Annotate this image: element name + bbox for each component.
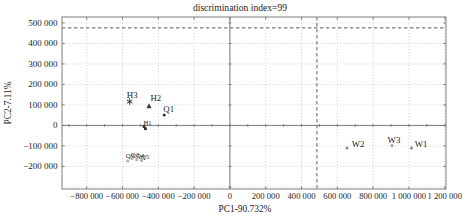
data-point-W2: W2 <box>345 139 364 150</box>
data-point-W3: W3 <box>388 135 401 147</box>
tick-labels: −800 000−600 000−400 000−200 0000200 000… <box>23 18 462 201</box>
data-point-H3: H3 <box>127 90 138 104</box>
y-tick-label: −200 000 <box>23 161 58 171</box>
y-tick-label: 500 000 <box>28 18 58 28</box>
gridlines <box>62 17 446 189</box>
x-tick-label: 0 <box>228 191 232 201</box>
point-label: H1 <box>144 119 152 126</box>
point-label: H3 <box>127 90 138 100</box>
data-point-H2: H2 <box>146 93 161 109</box>
data-point <box>144 127 147 130</box>
y-tick-label: 0 <box>53 120 58 130</box>
point-label: W3 <box>388 135 401 145</box>
point-label: H2 <box>150 93 161 103</box>
y-tick-label: 300 000 <box>28 59 58 69</box>
data-point-W1: W1 <box>410 139 427 150</box>
x-tick-label: 400 000 <box>288 191 316 201</box>
x-tick-label: 1 000 000 <box>392 191 426 201</box>
y-tick-label: −100 000 <box>23 141 58 151</box>
y-tick-label: 200 000 <box>28 79 58 89</box>
zero-axis-lines <box>62 17 446 189</box>
y-tick-label: 100 000 <box>28 100 58 110</box>
data-points: H3H2Q1H1Q2Q3Q4Q5W2W3W1 <box>126 90 428 162</box>
data-point-Q5: Q5 <box>140 153 150 163</box>
y-tick-label: 400 000 <box>28 38 58 48</box>
chart-title: discrimination index=99 <box>193 2 287 13</box>
y-axis-title: PC2-7.11% <box>3 81 13 124</box>
data-point-H1: H1 <box>143 119 152 127</box>
x-tick-label: 1 200 000 <box>428 191 462 201</box>
data-point-Q1: Q1 <box>163 104 174 116</box>
point-label: Q1 <box>163 104 174 114</box>
x-tick-label: −200 000 <box>178 191 211 201</box>
plot-area: −800 000−600 000−400 000−200 0000200 000… <box>0 0 466 222</box>
reference-lines <box>62 17 446 189</box>
point-label: W2 <box>352 139 365 149</box>
point-label: Q5 <box>141 153 150 160</box>
generated-chart-layers: −800 000−600 000−400 000−200 0000200 000… <box>23 17 462 201</box>
x-tick-label: −600 000 <box>106 191 139 201</box>
x-axis-title: PC1-90.732% <box>219 204 272 214</box>
x-tick-label: 600 000 <box>323 191 351 201</box>
pca-scatter-figure: −800 000−600 000−400 000−200 0000200 000… <box>0 0 466 222</box>
plot-frame <box>62 17 446 189</box>
x-tick-label: 200 000 <box>252 191 280 201</box>
x-tick-label: 800 000 <box>359 191 387 201</box>
x-tick-label: −400 000 <box>142 191 175 201</box>
x-tick-label: −800 000 <box>70 191 103 201</box>
point-label: W1 <box>415 139 428 149</box>
